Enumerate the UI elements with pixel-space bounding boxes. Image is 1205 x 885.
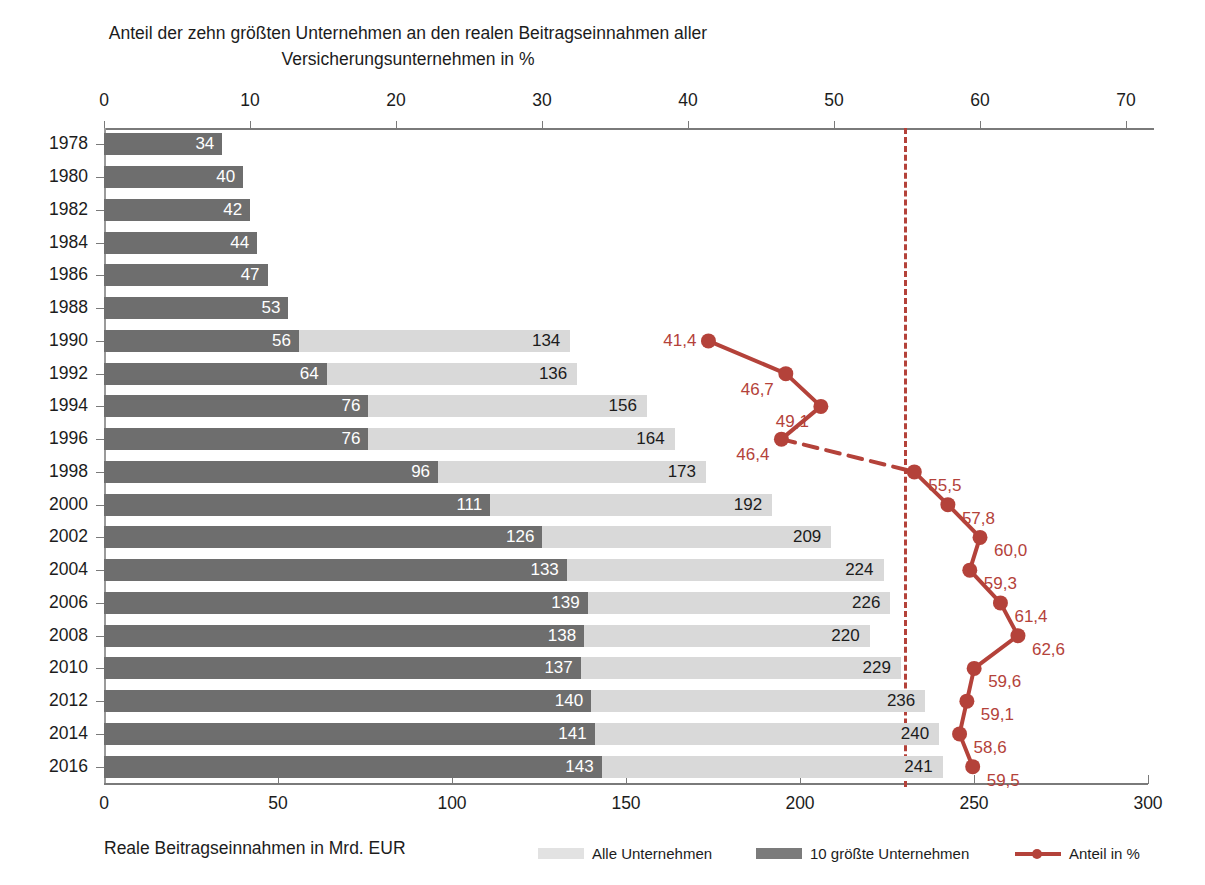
anteil-line-segment <box>786 374 821 407</box>
top-axis-tick <box>542 121 543 129</box>
y-axis-label-1978: 1978 <box>30 133 88 154</box>
y-axis-tick <box>96 439 104 440</box>
bar-label-10-groesste-1986: 47 <box>220 265 260 285</box>
anteil-line-segment <box>781 439 914 472</box>
y-axis-label-2000: 2000 <box>30 494 88 515</box>
anteil-data-point <box>959 694 974 709</box>
anteil-line-segment <box>967 668 974 701</box>
legend-item-10-groesste-unternehmen[interactable]: 10 größte Unternehmen <box>756 845 969 862</box>
y-axis-label-1984: 1984 <box>30 232 88 253</box>
y-axis-tick <box>96 144 104 145</box>
bar-10-groesste-2016 <box>104 756 602 778</box>
y-axis-label-2004: 2004 <box>30 559 88 580</box>
bar-label-10-groesste-2006: 139 <box>540 593 580 613</box>
bar-label-alle-unternehmen-2006: 226 <box>840 593 880 613</box>
legend-label-alle-unternehmen: Alle Unternehmen <box>592 845 712 862</box>
anteil-data-point <box>813 399 828 414</box>
bottom-axis-title: Reale Beitragseinnahmen in Mrd. EUR <box>104 838 406 859</box>
y-axis-tick <box>96 505 104 506</box>
anteil-point-label-2004: 59,3 <box>984 574 1017 594</box>
anteil-point-label-1996: 46,4 <box>709 445 769 465</box>
anteil-data-point <box>774 432 789 447</box>
bar-label-10-groesste-1992: 64 <box>279 364 319 384</box>
bar-label-10-groesste-2010: 137 <box>533 658 573 678</box>
y-axis-tick <box>96 308 104 309</box>
anteil-point-label-2002: 60,0 <box>994 541 1027 561</box>
y-axis-label-1986: 1986 <box>30 264 88 285</box>
legend-label-10-groesste-unternehmen: 10 größte Unternehmen <box>810 845 969 862</box>
top-axis-tick-label: 0 <box>99 90 109 111</box>
bar-label-alle-unternehmen-1998: 173 <box>656 462 696 482</box>
anteil-point-label-2010: 59,6 <box>988 672 1021 692</box>
bottom-axis-tick-label: 250 <box>959 793 988 814</box>
bar-label-alle-unternehmen-2012: 236 <box>875 691 915 711</box>
bar-10-groesste-2010 <box>104 657 581 679</box>
anteil-point-label-1990: 41,4 <box>636 331 696 351</box>
anteil-line-segment <box>960 701 967 734</box>
bar-10-groesste-2014 <box>104 723 595 745</box>
legend-item-alle-unternehmen[interactable]: Alle Unternehmen <box>538 845 712 862</box>
anteil-point-label-1992: 46,7 <box>714 380 774 400</box>
bottom-axis-tick <box>1148 775 1149 784</box>
anteil-point-label-2016: 59,5 <box>987 771 1020 791</box>
y-axis-label-1992: 1992 <box>30 363 88 384</box>
top-axis-tick-label: 70 <box>1116 90 1135 111</box>
legend-swatch-alle-unternehmen <box>538 848 584 859</box>
bar-label-10-groesste-2012: 140 <box>543 691 583 711</box>
bar-10-groesste-2002 <box>104 526 542 548</box>
bar-label-10-groesste-1998: 96 <box>390 462 430 482</box>
bar-label-10-groesste-2004: 133 <box>519 560 559 580</box>
y-axis-label-2002: 2002 <box>30 526 88 547</box>
bottom-axis-tick-label: 50 <box>268 793 287 814</box>
bar-label-10-groesste-1990: 56 <box>251 331 291 351</box>
bar-label-alle-unternehmen-2014: 240 <box>889 724 929 744</box>
anteil-point-label-2000: 57,8 <box>962 509 995 529</box>
bar-label-alle-unternehmen-2002: 209 <box>781 527 821 547</box>
bar-label-10-groesste-1988: 53 <box>240 298 280 318</box>
y-axis-label-2016: 2016 <box>30 756 88 777</box>
y-axis-tick <box>96 210 104 211</box>
bar-label-alle-unternehmen-1994: 156 <box>597 396 637 416</box>
top-axis-tick-label: 40 <box>678 90 697 111</box>
plot-area: 0102030405060700501001502002503001978341… <box>0 0 1205 885</box>
y-axis-label-2006: 2006 <box>30 592 88 613</box>
bar-label-10-groesste-1978: 34 <box>174 134 214 154</box>
bar-label-10-groesste-1996: 76 <box>320 429 360 449</box>
y-axis-tick <box>96 767 104 768</box>
bar-10-groesste-2006 <box>104 592 588 614</box>
bar-label-alle-unternehmen-2008: 220 <box>820 626 860 646</box>
anteil-data-point <box>701 333 716 348</box>
anteil-data-point <box>1010 628 1025 643</box>
y-axis-tick <box>96 374 104 375</box>
reference-line <box>904 128 907 787</box>
bar-label-alle-unternehmen-1996: 164 <box>625 429 665 449</box>
anteil-line-segment <box>708 341 785 374</box>
anteil-data-point <box>907 464 922 479</box>
top-axis-tick <box>834 121 835 129</box>
y-axis-tick <box>96 472 104 473</box>
bar-10-groesste-2008 <box>104 625 584 647</box>
legend-item-anteil-in-prozent[interactable]: Anteil in % <box>1015 845 1140 862</box>
bottom-axis-tick-label: 150 <box>611 793 640 814</box>
bar-label-10-groesste-2016: 143 <box>554 757 594 777</box>
bottom-axis-tick-label: 100 <box>437 793 466 814</box>
bar-label-10-groesste-2000: 111 <box>442 495 482 515</box>
anteil-point-label-2006: 61,4 <box>1014 607 1047 627</box>
y-axis-tick <box>96 570 104 571</box>
anteil-line-segment <box>970 537 980 570</box>
top-axis-tick <box>250 121 251 129</box>
y-axis-tick <box>96 734 104 735</box>
bottom-axis-tick-label: 0 <box>99 793 109 814</box>
y-axis-label-1996: 1996 <box>30 428 88 449</box>
y-axis-tick <box>96 341 104 342</box>
top-axis-line <box>104 128 1154 130</box>
y-axis-tick <box>96 701 104 702</box>
y-axis-tick <box>96 406 104 407</box>
y-axis-label-2012: 2012 <box>30 690 88 711</box>
top-axis-tick <box>1126 121 1127 129</box>
bottom-axis-tick <box>974 775 975 784</box>
anteil-line-segment <box>974 636 1018 669</box>
bar-10-groesste-2004 <box>104 559 567 581</box>
anteil-data-point <box>778 366 793 381</box>
y-axis-label-1988: 1988 <box>30 297 88 318</box>
